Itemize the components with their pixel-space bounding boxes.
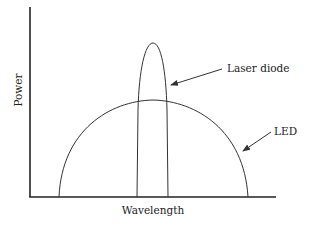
led-label: LED xyxy=(274,125,297,137)
laser-diode-label: Laser diode xyxy=(227,62,290,74)
diagram-canvas: Laser diode LED Wavelength Power xyxy=(0,0,314,226)
y-axis-label: Power xyxy=(12,72,24,106)
led-curve xyxy=(59,100,248,197)
x-axis-label: Wavelength xyxy=(122,204,185,216)
laser-diode-curve xyxy=(137,43,168,197)
led-arrow xyxy=(243,132,271,151)
laser-diode-arrow xyxy=(171,69,222,85)
